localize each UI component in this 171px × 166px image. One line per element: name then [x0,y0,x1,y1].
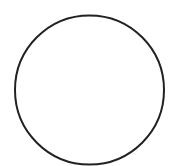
diagram-canvas [0,0,171,166]
background [0,0,171,166]
